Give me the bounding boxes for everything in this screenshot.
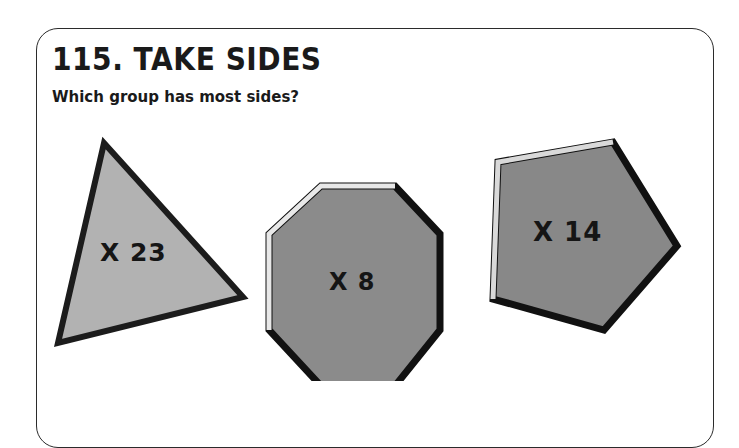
puzzle-question: Which group has most sides? — [52, 72, 672, 107]
puzzle-header: 115. TAKE SIDES Which group has most sid… — [52, 42, 672, 104]
page-title: 115. TAKE SIDES — [52, 42, 653, 76]
